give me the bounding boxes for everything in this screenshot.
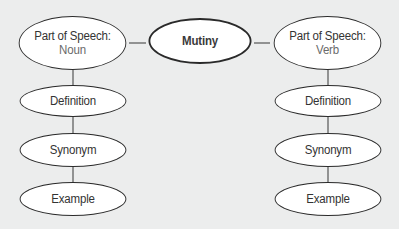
node-label: Definition [50, 94, 96, 108]
node-label: Part of Speech: [289, 29, 366, 43]
word-map-diagram: Part of Speech: Noun Definition Synonym … [0, 0, 399, 229]
node-label: Example [306, 192, 349, 206]
node-label: Synonym [305, 143, 352, 157]
node-part-of-speech-verb: Part of Speech: Verb [274, 16, 382, 70]
node-center-mutiny: Mutiny [148, 18, 251, 64]
node-part-of-speech-noun: Part of Speech: Noun [19, 16, 127, 70]
node-left-synonym: Synonym [20, 133, 127, 167]
node-label: Synonym [50, 143, 97, 157]
node-label: Definition [305, 94, 351, 108]
node-right-definition: Definition [275, 85, 382, 117]
node-label: Example [51, 192, 94, 206]
node-label: Part of Speech: [34, 29, 111, 43]
node-right-example: Example [275, 182, 382, 216]
node-left-definition: Definition [20, 85, 127, 117]
node-sublabel: Noun [59, 43, 86, 57]
node-sublabel: Verb [316, 43, 339, 57]
node-label: Mutiny [182, 34, 218, 48]
node-left-example: Example [20, 182, 127, 216]
node-right-synonym: Synonym [275, 133, 382, 167]
